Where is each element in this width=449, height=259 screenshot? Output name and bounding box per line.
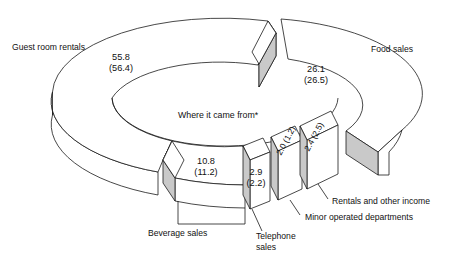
- chart-canvas: Guest room rentals 55.8 (56.4) Food sale…: [0, 0, 449, 259]
- value-food-sales-prior: (26.5): [296, 75, 336, 86]
- leader-minor-operated: [290, 200, 300, 215]
- value-food-sales-current: 26.1: [296, 64, 336, 75]
- chart-center-title: Where it came from*: [178, 110, 258, 120]
- label-food-sales: Food sales: [371, 44, 413, 55]
- value-guest-room-rentals-current: 55.8: [98, 52, 144, 63]
- label-telephone-sales-line2: sales: [256, 242, 276, 253]
- value-telephone-sales-prior: (2.2): [243, 178, 269, 189]
- label-beverage-sales: Beverage sales: [148, 228, 207, 239]
- value-beverage-sales-current: 10.8: [186, 156, 226, 167]
- value-telephone-sales-current: 2.9: [243, 167, 269, 178]
- label-guest-room-rentals: Guest room rentals: [12, 42, 85, 53]
- value-beverage-sales-prior: (11.2): [186, 167, 226, 178]
- label-rentals-and-other-income: Rentals and other income: [332, 196, 430, 207]
- value-guest-room-rentals-prior: (56.4): [98, 63, 144, 74]
- label-telephone-sales-line1: Telephone: [256, 231, 296, 242]
- label-minor-operated-departments: Minor operated departments: [305, 212, 413, 223]
- leader-rentals-other: [318, 184, 328, 199]
- leader-telephone-sales: [252, 209, 262, 231]
